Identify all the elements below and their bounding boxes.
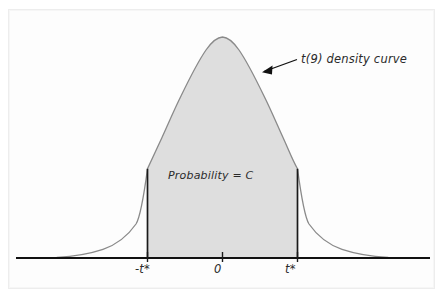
shaded-probability-region [148,37,298,258]
axis-tick-label-zero: 0 [214,262,222,276]
figure-container: t(9) density curve Probability = C -t* 0… [0,0,445,298]
arrow-pointing-to-curve [262,60,297,75]
axis-tick-label-tstar: t* [285,262,296,276]
curve-annotation-label: t(9) density curve [301,52,407,66]
t-distribution-plot [0,0,445,298]
probability-label: Probability = C [168,169,253,182]
axis-tick-label-neg-tstar: -t* [135,262,150,276]
